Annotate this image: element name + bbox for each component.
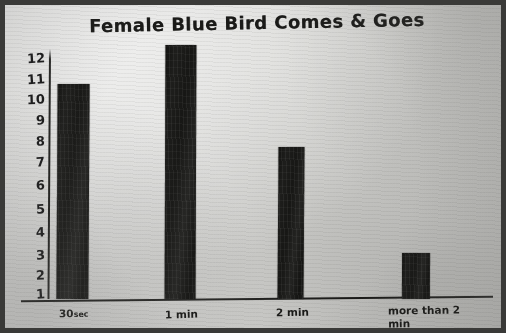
x-tick-label-1-min: 1 min [165, 308, 198, 322]
x-tick-label-2-min: 2 min [276, 306, 309, 320]
x-tick-unit: sec [74, 310, 89, 319]
chart-plot-area: Female Blue Bird Comes & Goes 12 11 10 9… [5, 5, 501, 328]
x-tick-label-30-sec: 30sec [59, 307, 89, 321]
photo-frame: Female Blue Bird Comes & Goes 12 11 10 9… [0, 0, 506, 333]
x-axis-tick-labels: 30sec 1 min 2 min more than 2 min [5, 5, 501, 328]
x-tick-value: 30 [59, 307, 74, 319]
x-tick-label-more-than-2-min: more than 2 min [388, 303, 461, 328]
paper-background: Female Blue Bird Comes & Goes 12 11 10 9… [5, 5, 501, 328]
